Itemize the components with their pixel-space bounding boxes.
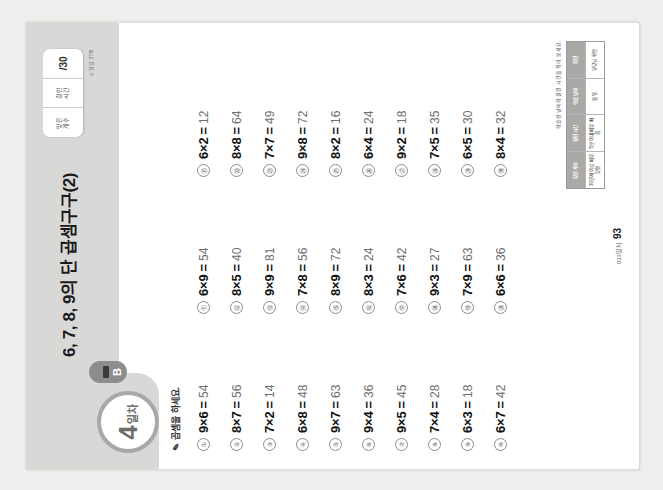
equals-sign: = (394, 127, 409, 135)
problem-item: ⑬9×9=81 (253, 177, 286, 314)
score-label-time: 걸린 (56, 87, 64, 99)
problem-answer: 24 (362, 248, 376, 261)
problem-number: ⑫ (230, 301, 243, 314)
problem-expression: 9×2 (394, 138, 409, 159)
problem-answer: 40 (230, 248, 244, 261)
score-column-total: /30 (43, 49, 83, 78)
problem-number: ② (230, 438, 243, 451)
problem-number: ⑯ (362, 301, 375, 314)
problem-answer: 36 (494, 248, 508, 261)
problem-expression: 9×6 (196, 412, 211, 433)
problem-expression: 7×7 (262, 138, 277, 159)
problem-number: ⑧ (428, 438, 441, 451)
equals-sign: = (427, 401, 442, 409)
equals-sign: = (196, 401, 211, 409)
score-value-correct: 개수 (63, 117, 71, 129)
score-total: /30 (58, 56, 69, 70)
problem-expression: 9×9 (262, 275, 277, 296)
problem-item: ⑭7×8=56 (286, 177, 319, 314)
score-box: 맞은 개수 걸린 시간 /30 (43, 49, 83, 137)
problem-expression: 9×3 (427, 275, 442, 296)
problem-item: ⑨6×3=18 (451, 314, 484, 451)
day-number: 4 (115, 425, 141, 439)
problem-number: ㉘ (428, 164, 441, 177)
instruction-text: 곱셈을 하세요. (171, 387, 181, 440)
problem-item: ㉒8×8=64 (220, 40, 253, 177)
problem-expression: 6×3 (460, 412, 475, 433)
equals-sign: = (493, 127, 508, 135)
problem-item: ⑮8×9=72 (319, 177, 352, 314)
rubric-body-cell: 월 일 (586, 78, 604, 115)
equals-sign: = (262, 401, 277, 409)
rubric-body-cell: 5분 이내 매우 빠름 (586, 115, 604, 152)
section-badge: B (89, 361, 127, 383)
screenshot-root: 6, 7, 8, 9의 단 곱셈구구(2) 맞은 개수 걸린 시간 /30 ※ … (0, 0, 663, 490)
problem-column-2: ⑪6×9=54⑫8×5=40⑬9×9=81⑭7×8=56⑮8×9=72⑯8×3=… (187, 177, 517, 314)
problem-number: ⑳ (494, 301, 507, 314)
problem-answer: 27 (428, 248, 442, 261)
problem-expression: 8×9 (328, 275, 343, 296)
equals-sign: = (361, 264, 376, 272)
problem-number: ㉓ (263, 164, 276, 177)
rubric-header-cell: 학습 날짜 (567, 78, 585, 115)
rubric-header-cell: 걸린 시간 (567, 115, 585, 152)
problem-item: ⑧7×4=28 (418, 314, 451, 451)
problem-number: ⑦ (395, 438, 408, 451)
equals-sign: = (493, 401, 508, 409)
problem-expression: 9×5 (394, 412, 409, 433)
problem-item: ⑯8×3=24 (352, 177, 385, 314)
rubric-header-cell: 맞은 개수 (567, 151, 585, 188)
problem-item: ⑥9×4=36 (352, 314, 385, 451)
problem-answer: 32 (494, 111, 508, 124)
equals-sign: = (361, 401, 376, 409)
problem-number: ㉙ (461, 164, 474, 177)
problem-item: ㉖6×4=24 (352, 40, 385, 177)
problem-expression: 8×2 (328, 138, 343, 159)
problem-answer: 18 (395, 111, 409, 124)
problem-answer: 36 (362, 385, 376, 398)
problem-answer: 42 (494, 385, 508, 398)
rubric-header-cell: 확인 (567, 42, 585, 78)
problem-expression: 8×5 (229, 275, 244, 296)
problem-answer: 42 (395, 248, 409, 261)
page-title: 6, 7, 8, 9의 단 곱셈구구(2) (55, 173, 80, 357)
problem-expression: 7×2 (262, 412, 277, 433)
problem-number: ⑨ (461, 438, 474, 451)
problem-number: ⑥ (362, 438, 375, 451)
problem-number: ㉖ (362, 164, 375, 177)
rubric-table: 맞은 개수걸린 시간학습 날짜확인 30문제 이상 매우 잘함5분 이내 매우 … (566, 41, 605, 189)
day-unit-label: 일차 (124, 404, 140, 424)
score-column-time: 걸린 시간 (43, 78, 83, 108)
problem-number: ㉚ (494, 164, 507, 177)
equals-sign: = (328, 127, 343, 135)
equals-sign: = (460, 127, 475, 135)
equals-sign: = (394, 401, 409, 409)
problem-number: ㉗ (395, 164, 408, 177)
answer-key-note: ※ 정답 37쪽 (87, 49, 94, 77)
equals-sign: = (361, 127, 376, 135)
problem-expression: 6×6 (493, 275, 508, 296)
problem-number: ⑬ (263, 301, 276, 314)
problem-expression: 6×2 (196, 138, 211, 159)
equals-sign: = (295, 264, 310, 272)
problem-answer: 28 (428, 385, 442, 398)
problem-answer: 14 (263, 385, 277, 398)
problem-item: ㉘7×5=35 (418, 40, 451, 177)
problem-item: ⑳6×6=36 (484, 177, 517, 314)
problem-expression: 8×7 (229, 412, 244, 433)
equals-sign: = (493, 264, 508, 272)
problem-expression: 6×5 (460, 138, 475, 159)
problem-answer: 35 (428, 111, 442, 124)
problem-item: ⑰7×6=42 (385, 177, 418, 314)
problem-answer: 56 (296, 248, 310, 261)
rubric-body-cell: 부모님 확인 (586, 42, 604, 78)
problem-answer: 63 (329, 385, 343, 398)
problem-answer: 64 (230, 111, 244, 124)
problem-number: ④ (296, 438, 309, 451)
problem-expression: 7×5 (427, 138, 442, 159)
equals-sign: = (229, 127, 244, 135)
problem-answer: 45 (395, 385, 409, 398)
problem-expression: 7×6 (394, 275, 409, 296)
problem-expression: 7×4 (427, 412, 442, 433)
equals-sign: = (262, 127, 277, 135)
